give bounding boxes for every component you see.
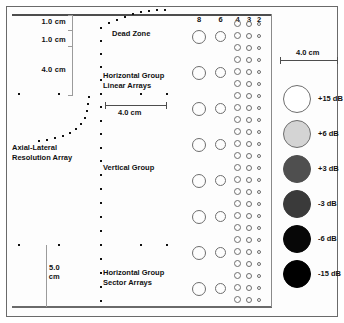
legend-swatch-6dB <box>283 225 311 253</box>
annotation-axial-lateral-resolution-array: Axial-LateralResolution Array <box>12 143 72 162</box>
circular-target-6mm-0 <box>215 31 226 42</box>
circular-target-3mm-15 <box>246 201 252 207</box>
scale-bar-center-label: 4.0 cm <box>118 108 141 117</box>
legend-swatch-15dB <box>283 85 311 113</box>
pin-target-vertical-column-18 <box>100 272 102 274</box>
depth-ruler-upper <box>72 15 73 95</box>
annotation-vertical-group: Vertical Group <box>103 163 154 173</box>
pin-target-axial-lateral-arc-9 <box>87 103 89 105</box>
circular-target-2mm-9 <box>257 130 261 134</box>
circular-target-6mm-4 <box>215 175 226 186</box>
pin-target-axial-lateral-arc-5 <box>75 128 77 130</box>
circular-target-8mm-4 <box>192 174 206 188</box>
circular-target-8mm-6 <box>192 246 206 260</box>
circular-target-2mm-3 <box>257 58 261 62</box>
circular-target-3mm-4 <box>246 69 252 75</box>
circular-target-4mm-14 <box>234 188 241 195</box>
pin-target-horizontal-linear-row-4 <box>166 93 168 95</box>
circular-target-4mm-20 <box>234 260 241 267</box>
circular-target-2mm-21 <box>257 274 261 278</box>
circular-target-2mm-0 <box>257 22 261 26</box>
circular-target-3mm-0 <box>246 21 252 27</box>
depth-tick-2 <box>68 46 73 47</box>
circular-target-4mm-1 <box>234 32 241 39</box>
circular-target-4mm-22 <box>234 284 241 291</box>
circular-target-2mm-14 <box>257 190 261 194</box>
pin-target-vertical-column-7 <box>100 120 102 122</box>
pin-target-vertical-column-9 <box>100 147 102 149</box>
depth-tick-3 <box>68 95 73 96</box>
pin-target-vertical-column-1 <box>100 40 102 42</box>
annotation-line: Axial-Lateral <box>12 143 72 153</box>
legend-label-2: +3 dB <box>318 164 339 173</box>
circular-target-2mm-5 <box>257 82 261 86</box>
circular-target-6mm-3 <box>215 139 226 150</box>
circular-target-4mm-3 <box>234 56 241 63</box>
pin-target-vertical-column-15 <box>100 230 102 232</box>
circular-target-2mm-10 <box>257 142 261 146</box>
circular-target-2mm-7 <box>257 106 261 110</box>
circular-target-2mm-2 <box>257 46 261 50</box>
annotation-line: Horizontal Group <box>103 268 164 278</box>
circular-target-4mm-6 <box>234 92 241 99</box>
pin-target-vertical-column-0 <box>100 27 102 29</box>
phantom-bottom-edge <box>12 306 272 308</box>
circular-target-3mm-11 <box>246 153 252 159</box>
annotation-line: Vertical Group <box>103 163 154 173</box>
pin-target-axial-lateral-arc-6 <box>80 123 82 125</box>
circular-target-4mm-23 <box>234 296 241 303</box>
pin-target-vertical-column-6 <box>100 106 102 108</box>
pin-target-horizontal-sector-row-3 <box>140 244 142 246</box>
circular-target-3mm-19 <box>246 249 252 255</box>
circular-target-4mm-15 <box>234 200 241 207</box>
circular-target-3mm-17 <box>246 225 252 231</box>
pin-target-horizontal-linear-row-0 <box>18 93 20 95</box>
circular-target-4mm-10 <box>234 140 241 147</box>
legend-swatch-3dB <box>283 190 311 218</box>
circular-target-3mm-13 <box>246 177 252 183</box>
pin-target-horizontal-linear-row-3 <box>140 93 142 95</box>
legend-swatch-3dB <box>283 155 311 183</box>
pin-target-horizontal-linear-row-1 <box>58 93 60 95</box>
circular-target-2mm-8 <box>257 118 261 122</box>
circular-target-4mm-12 <box>234 164 241 171</box>
scale-bar-cap-left <box>280 57 281 64</box>
circular-target-6mm-2 <box>215 103 226 114</box>
pin-target-dead-zone-arc-4 <box>132 13 134 15</box>
pin-target-vertical-column-13 <box>100 202 102 204</box>
circular-target-8mm-7 <box>192 282 206 296</box>
pin-target-vertical-column-12 <box>100 188 102 190</box>
circular-target-2mm-15 <box>257 202 261 206</box>
circular-target-3mm-2 <box>246 45 252 51</box>
pin-target-axial-lateral-arc-1 <box>46 139 48 141</box>
circular-target-2mm-23 <box>257 298 261 302</box>
circular-target-3mm-9 <box>246 129 252 135</box>
circular-target-4mm-9 <box>234 128 241 135</box>
annotation-dead-zone: Dead Zone <box>112 29 150 39</box>
legend-swatch-6dB <box>283 120 311 148</box>
circular-target-3mm-10 <box>246 141 252 147</box>
legend-divider <box>271 14 272 307</box>
depth-tick-1 <box>68 30 73 31</box>
circular-target-4mm-18 <box>234 236 241 243</box>
legend-label-0: +15 dB <box>318 94 343 103</box>
pin-target-vertical-column-3 <box>100 66 102 68</box>
circular-target-2mm-1 <box>257 34 261 38</box>
pin-target-vertical-column-8 <box>100 133 102 135</box>
legend-label-3: -3 dB <box>318 199 337 208</box>
circular-target-2mm-11 <box>257 154 261 158</box>
target-column-header-6: 6 <box>214 15 228 24</box>
annotation-line: Linear Arrays <box>103 81 164 91</box>
pin-target-dead-zone-arc-1 <box>108 22 110 24</box>
circular-target-4mm-0 <box>234 20 241 27</box>
pin-target-horizontal-sector-row-0 <box>18 244 20 246</box>
circular-target-3mm-3 <box>246 57 252 63</box>
pin-target-axial-lateral-arc-0 <box>38 140 40 142</box>
circular-target-8mm-3 <box>192 138 206 152</box>
legend-swatch-15dB <box>283 260 311 288</box>
pin-target-dead-zone-arc-2 <box>116 19 118 21</box>
circular-target-2mm-6 <box>257 94 261 98</box>
legend-label-1: +6 dB <box>318 129 339 138</box>
circular-target-4mm-16 <box>234 212 241 219</box>
annotation-horizontal-group-sector-arrays: Horizontal GroupSector Arrays <box>103 268 164 287</box>
